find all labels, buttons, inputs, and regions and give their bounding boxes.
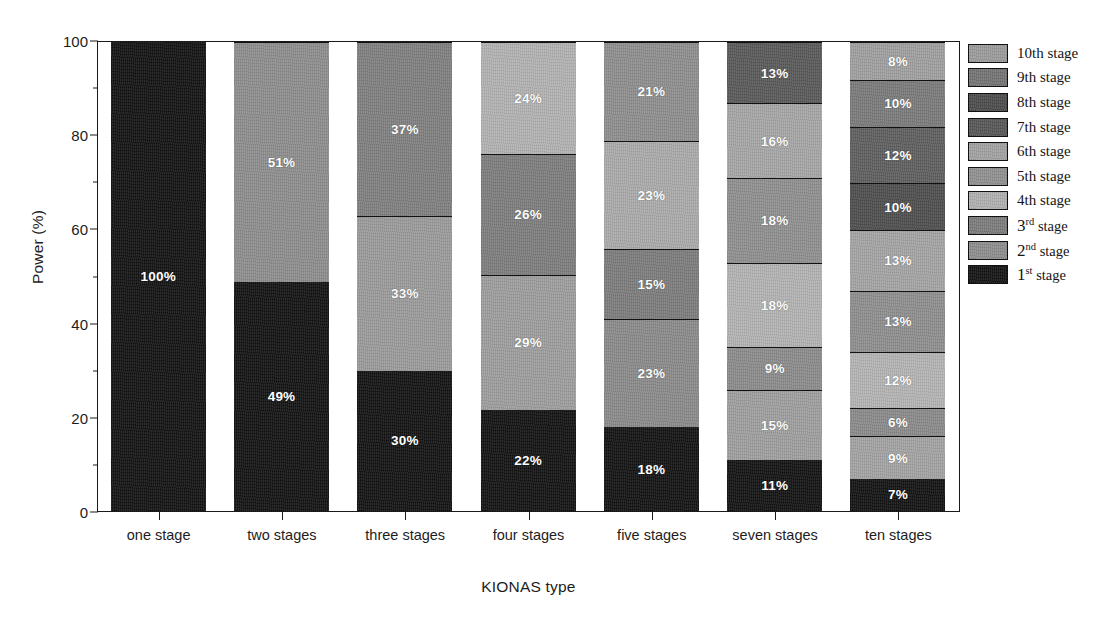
legend-label: 5th stage bbox=[1017, 169, 1071, 184]
bar-one-stage[interactable]: 100% bbox=[111, 42, 206, 511]
bar-segment-label: 15% bbox=[761, 418, 789, 433]
legend-label: 1st stage bbox=[1017, 266, 1066, 283]
bar-segment[interactable]: 13% bbox=[850, 230, 945, 291]
bar-segment-label: 12% bbox=[884, 373, 912, 388]
bar-segment[interactable]: 22% bbox=[481, 410, 576, 512]
bar-segment-label: 18% bbox=[761, 213, 789, 228]
y-tick-label: 60 bbox=[40, 221, 88, 238]
bar-segment[interactable]: 16% bbox=[727, 103, 822, 178]
x-axis-tick-marks bbox=[97, 512, 960, 521]
bar-segment-label: 21% bbox=[638, 84, 666, 99]
bar-segment[interactable]: 10% bbox=[850, 183, 945, 230]
legend-swatch bbox=[968, 191, 1008, 210]
bar-segment[interactable]: 49% bbox=[234, 282, 329, 511]
bar-segment-label: 6% bbox=[888, 415, 908, 430]
bar-segment[interactable]: 13% bbox=[727, 42, 822, 103]
bar-segment[interactable]: 51% bbox=[234, 42, 329, 282]
legend-item-9th-stage[interactable]: 9th stage bbox=[968, 66, 1108, 91]
bar-segment-label: 12% bbox=[884, 148, 912, 163]
bar-segment[interactable]: 18% bbox=[727, 263, 822, 347]
x-tick-mark bbox=[775, 512, 776, 520]
bar-segment[interactable]: 21% bbox=[604, 42, 699, 141]
y-tick-label: 80 bbox=[40, 127, 88, 144]
legend-swatch bbox=[968, 118, 1008, 137]
bar-seven-stages[interactable]: 11%15%9%18%18%16%13% bbox=[727, 42, 822, 511]
legend-item-8th-stage[interactable]: 8th stage bbox=[968, 90, 1108, 115]
bar-segment[interactable]: 9% bbox=[850, 436, 945, 478]
bar-segment[interactable]: 18% bbox=[727, 178, 822, 262]
bar-segment[interactable]: 13% bbox=[850, 291, 945, 352]
bar-segment-label: 33% bbox=[391, 286, 419, 301]
bar-segment-label: 37% bbox=[391, 122, 419, 137]
bar-segment-label: 26% bbox=[514, 207, 542, 222]
bar-segment-label: 13% bbox=[884, 253, 912, 268]
bar-segment-label: 18% bbox=[638, 462, 666, 477]
bar-segment-label: 23% bbox=[638, 366, 666, 381]
x-tick-mark bbox=[529, 512, 530, 520]
stacked-bar-chart: Power (%) 020406080100 100%49%51%30%33%3… bbox=[0, 0, 1108, 643]
bar-segment-label: 8% bbox=[888, 54, 908, 69]
bar-segment[interactable]: 33% bbox=[357, 216, 452, 371]
legend-item-3rd-stage[interactable]: 3rd stage bbox=[968, 213, 1108, 238]
legend-item-7th-stage[interactable]: 7th stage bbox=[968, 115, 1108, 140]
bar-segment[interactable]: 37% bbox=[357, 42, 452, 216]
legend-item-1st-stage[interactable]: 1st stage bbox=[968, 262, 1108, 287]
bar-segment[interactable]: 6% bbox=[850, 408, 945, 437]
plot-area: 100%49%51%30%33%37%22%29%26%24%18%23%15%… bbox=[97, 41, 960, 512]
bar-segment-label: 7% bbox=[888, 487, 908, 502]
bar-segment[interactable]: 29% bbox=[481, 275, 576, 410]
bar-segment-label: 13% bbox=[761, 66, 789, 81]
legend-item-6th-stage[interactable]: 6th stage bbox=[968, 139, 1108, 164]
legend-item-4th-stage[interactable]: 4th stage bbox=[968, 189, 1108, 214]
bar-segment-label: 13% bbox=[884, 314, 912, 329]
bar-two-stages[interactable]: 49%51% bbox=[234, 42, 329, 511]
bar-three-stages[interactable]: 30%33%37% bbox=[357, 42, 452, 511]
bar-segment[interactable]: 11% bbox=[727, 460, 822, 511]
bar-four-stages[interactable]: 22%29%26%24% bbox=[481, 42, 576, 511]
legend-label: 4th stage bbox=[1017, 193, 1071, 208]
bar-segment[interactable]: 24% bbox=[481, 42, 576, 154]
legend-item-5th-stage[interactable]: 5th stage bbox=[968, 164, 1108, 189]
bar-segment-label: 10% bbox=[884, 96, 912, 111]
bar-segment[interactable]: 10% bbox=[850, 80, 945, 127]
bar-segment[interactable]: 26% bbox=[481, 154, 576, 275]
bar-segment-label: 18% bbox=[761, 298, 789, 313]
y-axis-tick-labels: 020406080100 bbox=[40, 41, 88, 512]
legend-label: 3rd stage bbox=[1017, 217, 1068, 234]
bar-segment[interactable]: 7% bbox=[850, 479, 945, 511]
legend-item-2nd-stage[interactable]: 2nd stage bbox=[968, 238, 1108, 263]
x-tick-mark bbox=[282, 512, 283, 520]
x-tick-label: ten stages bbox=[818, 527, 978, 543]
bar-segment[interactable]: 12% bbox=[850, 127, 945, 183]
legend-label: 6th stage bbox=[1017, 144, 1071, 159]
bar-five-stages[interactable]: 18%23%15%23%21% bbox=[604, 42, 699, 511]
bar-segment-label: 10% bbox=[884, 200, 912, 215]
bar-segment-label: 9% bbox=[888, 451, 908, 466]
bar-ten-stages[interactable]: 7%9%6%12%13%13%10%12%10%8% bbox=[850, 42, 945, 511]
x-tick-mark bbox=[159, 512, 160, 520]
bar-segment-label: 22% bbox=[514, 453, 542, 468]
x-tick-mark bbox=[405, 512, 406, 520]
bar-segment[interactable]: 18% bbox=[604, 427, 699, 511]
bar-segment[interactable]: 23% bbox=[604, 141, 699, 249]
bar-segment[interactable]: 30% bbox=[357, 371, 452, 511]
legend-swatch bbox=[968, 93, 1008, 112]
bar-segment-label: 11% bbox=[761, 478, 788, 493]
bar-segment-label: 24% bbox=[514, 91, 542, 106]
legend-label: 2nd stage bbox=[1017, 242, 1069, 259]
bar-segment-label: 23% bbox=[638, 188, 666, 203]
bar-segment[interactable]: 12% bbox=[850, 352, 945, 408]
bar-segment[interactable]: 9% bbox=[727, 347, 822, 390]
x-axis-tick-labels: one stagetwo stagesthree stagesfour stag… bbox=[97, 527, 960, 551]
bar-segment[interactable]: 15% bbox=[727, 390, 822, 460]
y-tick-label: 40 bbox=[40, 315, 88, 332]
bar-segment[interactable]: 23% bbox=[604, 319, 699, 427]
legend-item-10th-stage[interactable]: 10th stage bbox=[968, 41, 1108, 66]
bar-segment[interactable]: 8% bbox=[850, 42, 945, 80]
y-tick-label: 100 bbox=[40, 33, 88, 50]
chart-legend: 10th stage9th stage8th stage7th stage6th… bbox=[968, 41, 1108, 287]
bar-segment-label: 9% bbox=[765, 361, 785, 376]
x-tick-mark bbox=[652, 512, 653, 520]
bar-segment[interactable]: 100% bbox=[111, 42, 206, 511]
bar-segment[interactable]: 15% bbox=[604, 249, 699, 320]
